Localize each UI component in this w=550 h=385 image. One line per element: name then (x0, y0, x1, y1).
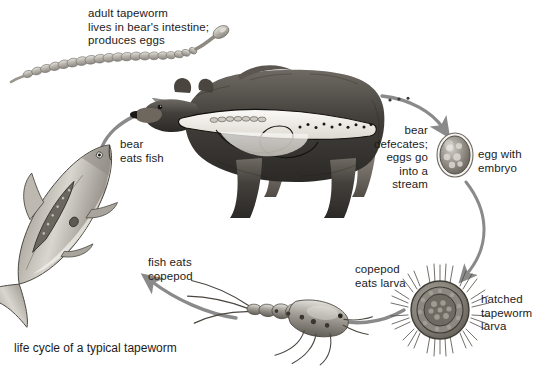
label-bear-eats-fish: bear eats fish (120, 138, 164, 165)
arrow-egg-to-larva (466, 182, 484, 275)
label-bear-defecates: bear defecates; eggs go into a stream (330, 124, 428, 192)
tapeworm-life-cycle-diagram: adult tapeworm lives in bear's intestine… (0, 0, 550, 385)
label-hatched-tapeworm-larva: hatched tapeworm larva (481, 293, 532, 334)
egg-with-embryo-illustration (437, 133, 473, 177)
label-fish-eats-copepod: fish eats copepod (148, 256, 193, 283)
label-adult-tapeworm: adult tapeworm lives in bear's intestine… (88, 7, 209, 48)
label-copepod-eats-larva: copepod eats larva (355, 263, 406, 290)
diagram-artwork (0, 0, 550, 385)
label-egg-with-embryo: egg with embryo (478, 148, 522, 175)
copepod-illustration (181, 280, 374, 372)
arrow-fish-eats-copepod (151, 281, 236, 318)
diagram-caption: life cycle of a typical tapeworm (14, 341, 177, 355)
